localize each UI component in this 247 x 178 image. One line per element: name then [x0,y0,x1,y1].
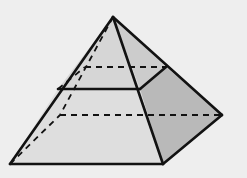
pyramid-drawing: Square pyramid with horizontal cross-sec… [0,0,247,178]
pyramid-figure: Square pyramid with horizontal cross-sec… [0,0,247,178]
